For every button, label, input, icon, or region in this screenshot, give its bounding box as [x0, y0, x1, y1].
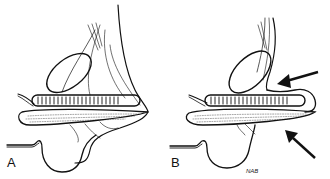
- artist-signature: NAB: [246, 168, 258, 174]
- panel-label-a: A: [7, 156, 16, 169]
- anatomical-figure: A: [0, 0, 330, 179]
- panel-a: A: [0, 0, 165, 179]
- panel-label-b: B: [171, 156, 180, 169]
- arrow-upper-icon: [277, 72, 318, 88]
- arrow-lower-icon: [285, 130, 315, 158]
- panel-b: B NAB: [165, 0, 330, 179]
- panel-a-illustration: [0, 0, 165, 179]
- panel-b-illustration: [165, 0, 330, 179]
